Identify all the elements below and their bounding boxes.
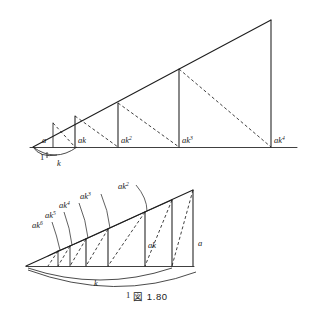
lower-label-ak5: ak5 bbox=[45, 210, 56, 220]
leader-ak4 bbox=[79, 203, 88, 238]
upper-label-k: k bbox=[57, 158, 61, 168]
lower-label-ak4: ak4 bbox=[59, 200, 70, 210]
lower-label-ak3: ak3 bbox=[80, 191, 91, 201]
upper-arc-one bbox=[33, 147, 57, 156]
lower-arc-one bbox=[28, 270, 196, 287]
upper-label-one: 1 bbox=[40, 152, 44, 162]
lower-label-one: 1 bbox=[126, 290, 130, 300]
upper-label-ak4: ak4 bbox=[274, 135, 285, 145]
upper-label-ak: ak bbox=[78, 135, 86, 145]
lower-dashed-5 bbox=[70, 239, 86, 266]
lower-label-ak6: ak6 bbox=[32, 220, 43, 230]
upper-label-ak3: ak3 bbox=[182, 135, 193, 145]
figure-canvas: a ak ak2 ak3 ak4 1 k bbox=[0, 0, 311, 317]
lower-dashed-4 bbox=[86, 229, 108, 266]
lower-arc-k bbox=[28, 268, 172, 280]
lower-label-a: a bbox=[198, 238, 202, 248]
lower-step-cap-5 bbox=[108, 212, 145, 229]
upper-label-ak2: ak2 bbox=[121, 135, 132, 145]
lower-step-cap-3 bbox=[70, 239, 86, 246]
upper-diagram: a ak ak2 ak3 ak4 1 k bbox=[30, 20, 297, 168]
figure-page: a ak ak2 ak3 ak4 1 k bbox=[0, 0, 311, 317]
lower-diagram: ak6 ak5 ak4 ak3 ak2 ak a k 1 bbox=[26, 181, 202, 300]
lower-label-ak2: ak2 bbox=[118, 181, 129, 191]
leader-ak5 bbox=[64, 212, 72, 245]
lower-dashed-1 bbox=[172, 190, 193, 266]
upper-hypotenuse bbox=[33, 20, 271, 147]
lower-label-ak: ak bbox=[148, 240, 156, 250]
leader-ak2 bbox=[136, 185, 147, 211]
lower-label-k: k bbox=[94, 278, 98, 288]
figure-caption: 図 1.80 bbox=[133, 291, 168, 302]
leader-ak3 bbox=[101, 194, 110, 228]
upper-label-a: a bbox=[42, 135, 46, 145]
leader-ak6 bbox=[52, 222, 60, 250]
